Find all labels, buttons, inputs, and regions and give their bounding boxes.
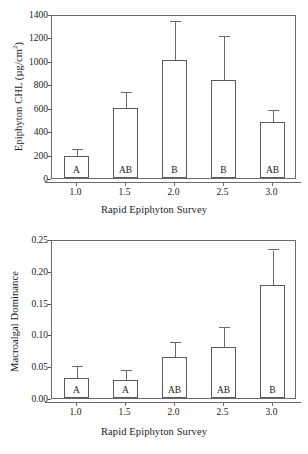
x-tick-label: 1.0: [70, 187, 82, 197]
chart-panel-macroalgal-dominance: Macroalgal Dominance 0.000.050.100.150.2…: [0, 227, 308, 454]
x-tick-label: 1.5: [119, 407, 131, 417]
y-tick-label: 400: [34, 127, 48, 137]
error-bar-cap: [121, 92, 132, 93]
x-tick-label: 1.5: [119, 187, 131, 197]
y-tick-label: 1000: [29, 57, 48, 67]
y-tick-label: 800: [34, 80, 48, 90]
y-tick-mark: [48, 15, 51, 16]
y-tick-label: 0.25: [31, 235, 48, 245]
y-tick-mark: [48, 62, 51, 63]
x-tick-mark: [125, 403, 126, 406]
error-bar-cap: [219, 327, 230, 328]
x-tick-mark: [125, 183, 126, 186]
y-tick-mark: [48, 367, 51, 368]
y-tick-label: 0.10: [31, 330, 48, 340]
error-bar: [126, 93, 127, 108]
y-axis-title-top: Epiphyton CHL (µg/cm2): [8, 15, 22, 178]
y-tick-mark: [48, 109, 51, 110]
y-tick-mark: [48, 132, 51, 133]
x-tick-mark: [223, 183, 224, 186]
plot-area-bottom: AAABABB: [51, 240, 296, 399]
error-bar: [224, 37, 225, 80]
y-tick-mark: [48, 272, 51, 273]
error-bar-cap: [219, 36, 230, 37]
x-axis-title-bottom: Rapid Epiphyton Survey: [0, 426, 308, 437]
y-tick-mark: [48, 304, 51, 305]
y-tick-mark: [48, 179, 51, 180]
y-axis-title-bottom: Macroalgal Dominance: [8, 240, 22, 403]
y-tick-label: 0.15: [31, 299, 48, 309]
x-tick-label: 2.0: [168, 187, 180, 197]
y-tick-mark: [48, 38, 51, 39]
error-bar: [126, 371, 127, 380]
y-tick-mark: [48, 335, 51, 336]
significance-group-label: AB: [162, 385, 187, 396]
y-tick-mark: [48, 156, 51, 157]
y-axis-title-bottom-text: Macroalgal Dominance: [9, 271, 20, 372]
x-tick-label: 2.0: [168, 407, 180, 417]
significance-group-label: A: [64, 165, 89, 176]
error-bar: [224, 328, 225, 347]
significance-group-label: A: [64, 385, 89, 396]
significance-group-label: B: [211, 165, 236, 176]
error-bar-cap: [170, 21, 181, 22]
error-bar: [273, 251, 274, 285]
plot-area-top: AABBBAB: [51, 15, 296, 179]
y-tick-mark: [48, 240, 51, 241]
x-tick-mark: [76, 183, 77, 186]
y-tick-label: 1400: [29, 10, 48, 20]
x-tick-mark: [272, 403, 273, 406]
error-bar: [77, 367, 78, 378]
x-tick-mark: [174, 183, 175, 186]
y-tick-label: 0.20: [31, 267, 48, 277]
error-bar: [175, 342, 176, 357]
significance-group-label: B: [162, 165, 187, 176]
y-axis-title-top-exponent: 2: [11, 45, 19, 49]
error-bar-cap: [72, 366, 83, 367]
x-tick-label: 2.5: [217, 407, 229, 417]
y-axis-ticks-top: 0200400600800100012001400: [22, 0, 48, 227]
x-tick-mark: [76, 403, 77, 406]
error-bar-cap: [121, 370, 132, 371]
y-tick-label: 200: [34, 151, 48, 161]
x-tick-mark: [174, 403, 175, 406]
y-tick-mark: [48, 399, 51, 400]
significance-group-label: AB: [260, 165, 285, 176]
x-axis-title-top: Rapid Epiphyton Survey: [0, 204, 308, 215]
error-bar: [273, 111, 274, 122]
chart-panel-epiphyton-chl: Epiphyton CHL (µg/cm2) 02004006008001000…: [0, 0, 308, 227]
x-tick-label: 2.5: [217, 187, 229, 197]
error-bar: [175, 22, 176, 60]
bar: [260, 285, 285, 398]
y-tick-label: 0.05: [31, 362, 48, 372]
y-tick-mark: [48, 85, 51, 86]
x-tick-mark: [272, 183, 273, 186]
x-axis-line-bottom: [45, 402, 301, 403]
error-bar-cap: [72, 149, 83, 150]
y-tick-label: 1200: [29, 33, 48, 43]
y-tick-label: 600: [34, 104, 48, 114]
x-tick-label: 1.0: [70, 407, 82, 417]
x-axis-line-top: [45, 182, 301, 183]
bar: [211, 80, 236, 178]
y-axis-ticks-bottom: 0.000.050.100.150.200.25: [22, 227, 48, 454]
error-bar-cap: [170, 342, 181, 343]
significance-group-label: AB: [113, 165, 138, 176]
significance-group-label: A: [113, 385, 138, 396]
error-bar-cap: [268, 249, 279, 250]
error-bar-cap: [268, 110, 279, 111]
bar: [162, 60, 187, 178]
figure-two-panel-bar-chart: Epiphyton CHL (µg/cm2) 02004006008001000…: [0, 0, 308, 454]
x-tick-label: 3.0: [266, 407, 278, 417]
x-tick-mark: [223, 403, 224, 406]
error-bar: [77, 150, 78, 156]
significance-group-label: AB: [211, 385, 236, 396]
x-tick-label: 3.0: [266, 187, 278, 197]
significance-group-label: B: [260, 385, 285, 396]
